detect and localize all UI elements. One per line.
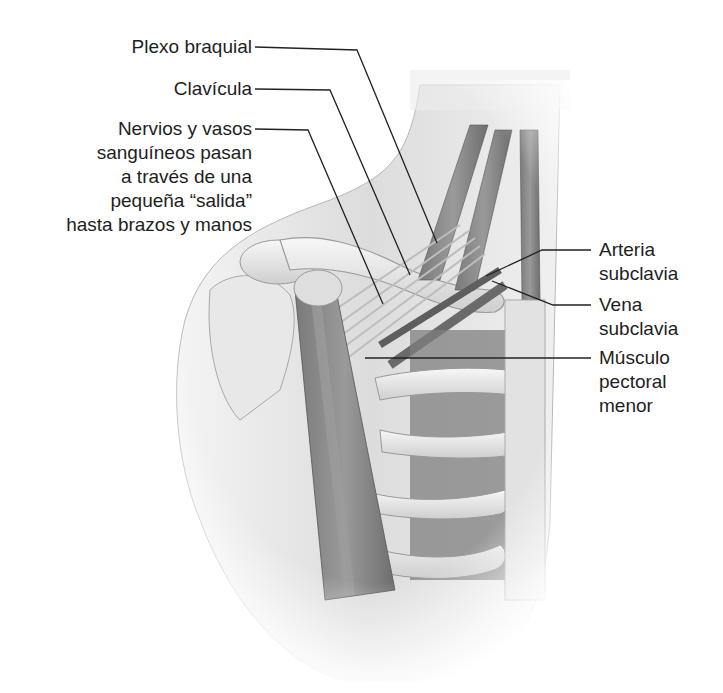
label-clavicula: Clavícula xyxy=(174,77,252,101)
label-arteria-subclavia: Arteria subclavia xyxy=(599,238,678,286)
label-vena-subclavia: Vena subclavia xyxy=(599,293,678,341)
label-plexo-braquial: Plexo braquial xyxy=(132,35,252,59)
label-nervios-vasos: Nervios y vasos sanguíneos pasan a travé… xyxy=(66,117,252,237)
label-musculo-pectoral-menor: Músculo pectoral menor xyxy=(599,346,670,418)
anatomy-figure: Plexo braquial Clavícula Nervios y vasos… xyxy=(0,0,723,693)
